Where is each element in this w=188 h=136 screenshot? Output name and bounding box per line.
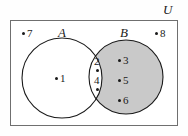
element-dot-2: [96, 69, 99, 72]
set-a-label: A: [58, 26, 66, 39]
element-dot-8: [155, 32, 158, 35]
venn-diagram-canvas: [0, 0, 188, 136]
element-dot-1: [55, 77, 58, 80]
element-label-2: 2: [94, 56, 100, 67]
set-b-label: B: [120, 26, 128, 39]
element-dot-3: [118, 59, 121, 62]
element-label-3: 3: [123, 55, 129, 66]
element-label-5: 5: [123, 75, 129, 86]
element-dot-4: [96, 88, 99, 91]
universe-label: U: [163, 3, 172, 16]
element-dot-5: [118, 79, 121, 82]
element-dot-6: [118, 99, 121, 102]
element-label-7: 7: [27, 28, 33, 39]
element-label-6: 6: [123, 95, 129, 106]
element-label-1: 1: [60, 73, 66, 84]
element-dot-7: [22, 32, 25, 35]
venn-diagram-figure: U A B 7 8 1 2 4 3 5 6: [0, 0, 188, 136]
element-label-4: 4: [94, 75, 100, 86]
element-label-8: 8: [160, 28, 166, 39]
